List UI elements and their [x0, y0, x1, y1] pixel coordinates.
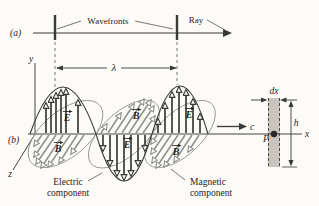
z-axis-label: z: [7, 169, 12, 179]
e-vector-hat-icon: [69, 110, 73, 113]
point-p-dot: [271, 131, 277, 137]
wavefronts-label: Wavefronts: [87, 16, 129, 26]
b-field-arrows-lobe-2: [101, 99, 155, 133]
electric-caption-line1: Electric: [53, 177, 83, 187]
wavelength-dimension: λ: [55, 42, 177, 90]
h-arrowhead-up-icon: [289, 101, 294, 108]
panel-a-label: (a): [10, 28, 21, 39]
x-axis-label: x: [304, 129, 310, 139]
panel-b-label: (b): [8, 135, 19, 146]
b-vector: [108, 113, 121, 133]
figure-canvas: (a) Wavefronts Ray λ (b) y z: [0, 0, 319, 206]
dx-arrowhead-right-icon: [261, 98, 268, 103]
p-label: P: [262, 134, 269, 144]
y-axis-label: y: [28, 54, 34, 64]
magnetic-caption-line2: component: [190, 188, 233, 198]
ray-label: Ray: [189, 15, 204, 25]
e-symbol-2: E: [123, 139, 131, 150]
electric-component-caption: Electric component: [47, 173, 102, 198]
ray-arrowhead-icon: [223, 29, 232, 37]
e-field-arrows-lobe-1: [46, 89, 78, 133]
magnetic-caption-pointer: [171, 169, 185, 180]
b-vector: [34, 135, 49, 157]
b-vector: [151, 135, 164, 154]
lambda-arrowhead-right-icon: [170, 66, 177, 71]
electric-caption-line2: component: [47, 188, 90, 198]
b-symbol-1: B: [54, 143, 62, 154]
ray-pointer: [207, 20, 225, 30]
e-symbol-1: E: [63, 112, 71, 123]
b-symbol-2: B: [132, 110, 140, 121]
b-vector: [34, 135, 42, 146]
b-vector: [71, 135, 84, 154]
magnetic-component-caption: Magnetic component: [171, 169, 232, 198]
c-label: c: [250, 122, 255, 132]
panel-a: (a) Wavefronts Ray: [10, 15, 232, 40]
c-arrowhead-icon: [239, 123, 247, 130]
b-vector-hat-icon: [60, 141, 64, 144]
e-symbol-3: E: [185, 109, 193, 120]
dx-arrowhead-left-icon: [280, 98, 287, 103]
wavefronts-pointer-right: [135, 21, 173, 29]
speed-arrow: c: [217, 122, 255, 132]
b-vector-hat-icon: [178, 144, 182, 147]
b-vector: [151, 135, 157, 144]
dx-label: dx: [270, 86, 280, 96]
h-arrowhead-down-icon: [289, 160, 294, 167]
e-field-arrows-lobe-3: [158, 87, 200, 133]
em-wave-figure: (a) Wavefronts Ray λ (b) y z: [0, 0, 319, 206]
lambda-arrowhead-left-icon: [56, 66, 63, 71]
panel-b: (b) y z x: [7, 54, 310, 198]
b-symbol-3: B: [172, 146, 180, 157]
electric-caption-pointer: [88, 173, 102, 181]
wavefronts-pointer-left: [57, 21, 81, 29]
wavelength-label: λ: [111, 61, 117, 73]
h-label: h: [294, 118, 299, 128]
magnetic-caption-line1: Magnetic: [190, 177, 226, 187]
b-vector-hat-icon: [138, 108, 142, 111]
